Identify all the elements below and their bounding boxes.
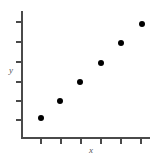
scatter-plot-canvas: y x bbox=[0, 0, 162, 160]
y-axis-label: y bbox=[8, 65, 13, 75]
data-point bbox=[118, 40, 124, 46]
data-point-group bbox=[38, 21, 145, 121]
data-point bbox=[57, 98, 63, 104]
x-axis-label: x bbox=[88, 145, 93, 155]
scatter-plot-figure: y x bbox=[0, 0, 162, 160]
data-point bbox=[98, 60, 104, 66]
data-point bbox=[77, 79, 83, 85]
data-point bbox=[139, 21, 145, 27]
data-point bbox=[38, 115, 44, 121]
